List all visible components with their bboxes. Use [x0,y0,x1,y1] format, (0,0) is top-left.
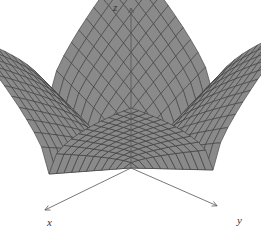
x-axis-label: x [47,216,52,228]
y-axis-label: y [237,214,242,226]
z-axis-label: z [113,1,117,13]
surface-mesh [0,0,261,174]
surface-plot [0,0,261,234]
